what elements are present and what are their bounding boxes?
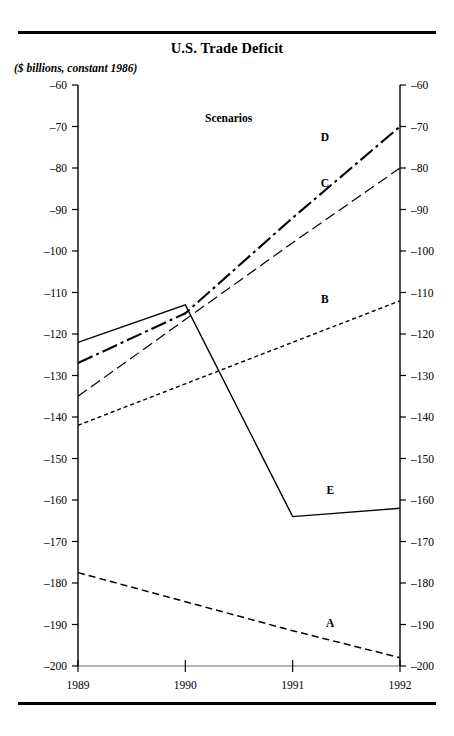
y-tick-label-left: –130 bbox=[43, 370, 67, 382]
series-line-e bbox=[78, 305, 400, 517]
y-tick-label-right: –110 bbox=[410, 287, 434, 299]
series-line-d bbox=[78, 127, 400, 364]
y-tick-label-right: –130 bbox=[410, 370, 434, 382]
x-tick-label: 1989 bbox=[67, 679, 90, 691]
y-tick-label-left: –90 bbox=[49, 204, 68, 216]
y-axis-left: –60–70–80–90–100–110–120–130–140–150–160… bbox=[43, 79, 78, 672]
y-tick-label-left: –60 bbox=[49, 79, 68, 91]
y-tick-label-left: –100 bbox=[43, 245, 67, 257]
y-tick-label-right: –190 bbox=[410, 619, 434, 631]
series-line-b bbox=[78, 301, 400, 426]
series-lines bbox=[78, 127, 400, 658]
y-tick-label-right: –170 bbox=[410, 536, 434, 548]
series-line-c bbox=[78, 168, 400, 396]
y-tick-label-right: –90 bbox=[410, 204, 429, 216]
y-tick-label-left: –120 bbox=[43, 328, 67, 340]
y-tick-label-right: –80 bbox=[410, 162, 429, 174]
y-tick-label-left: –70 bbox=[49, 121, 68, 133]
y-tick-label-left: –170 bbox=[43, 536, 67, 548]
x-tick-label: 1991 bbox=[281, 679, 304, 691]
y-tick-label-right: –100 bbox=[410, 245, 434, 257]
series-labels: ABCDE bbox=[321, 131, 335, 629]
y-tick-label-right: –160 bbox=[410, 494, 434, 506]
y-axis-right: –60–70–80–90–100–110–120–130–140–150–160… bbox=[400, 79, 434, 672]
y-tick-label-right: –60 bbox=[410, 79, 429, 91]
y-tick-label-left: –150 bbox=[43, 453, 67, 465]
y-tick-label-right: –120 bbox=[410, 328, 434, 340]
x-tick-label: 1990 bbox=[174, 679, 197, 691]
chart-figure: U.S. Trade Deficit ($ billions, constant… bbox=[0, 0, 454, 736]
series-line-a bbox=[78, 573, 400, 658]
y-tick-label-right: –150 bbox=[410, 453, 434, 465]
y-tick-label-left: –140 bbox=[43, 411, 67, 423]
x-tick-label: 1992 bbox=[389, 679, 412, 691]
y-tick-label-right: –180 bbox=[410, 577, 434, 589]
y-tick-label-left: –110 bbox=[43, 287, 67, 299]
y-tick-label-left: –190 bbox=[43, 619, 67, 631]
series-label-b: B bbox=[321, 293, 329, 305]
series-label-d: D bbox=[321, 131, 329, 143]
y-tick-label-left: –200 bbox=[43, 660, 67, 672]
y-tick-label-left: –160 bbox=[43, 494, 67, 506]
x-axis: 1989199019911992 bbox=[67, 660, 412, 691]
y-tick-label-left: –80 bbox=[49, 162, 68, 174]
series-label-a: A bbox=[326, 617, 335, 629]
line-chart-plot: –60–70–80–90–100–110–120–130–140–150–160… bbox=[0, 0, 454, 736]
series-label-c: C bbox=[321, 177, 329, 189]
y-tick-label-right: –200 bbox=[410, 660, 434, 672]
bottom-rule bbox=[18, 702, 436, 705]
y-tick-label-right: –140 bbox=[410, 411, 434, 423]
y-tick-label-right: –70 bbox=[410, 121, 429, 133]
y-tick-label-left: –180 bbox=[43, 577, 67, 589]
series-label-e: E bbox=[326, 484, 334, 496]
